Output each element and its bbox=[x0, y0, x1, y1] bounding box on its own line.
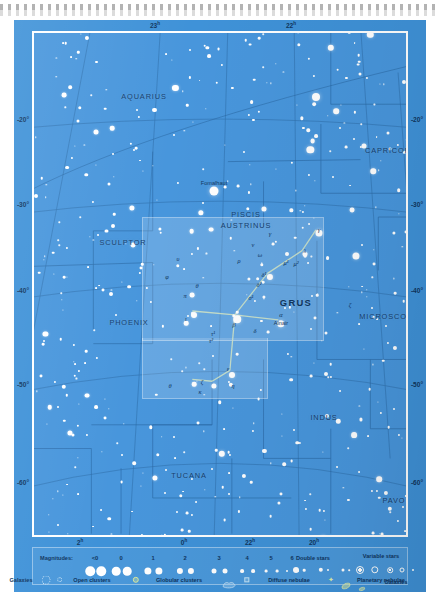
star-name-label: Alnair bbox=[274, 320, 288, 326]
star bbox=[406, 94, 407, 95]
constellation-label: CAPRICORNUS bbox=[365, 146, 408, 155]
double-star-symbol-medium-pair bbox=[327, 569, 329, 571]
bayer-designation-label: ι bbox=[185, 315, 187, 322]
magnitude-dot bbox=[251, 569, 255, 573]
dec-tick-left: -60° bbox=[17, 479, 29, 486]
magnitude-value-label: 5 bbox=[269, 555, 272, 561]
bayer-designation-label: γ bbox=[318, 226, 321, 233]
bayer-designation-label: κ bbox=[198, 388, 201, 395]
magnitude-dot bbox=[96, 566, 106, 576]
magnitude-value-label: <0 bbox=[92, 555, 99, 561]
star bbox=[32, 255, 33, 258]
bayer-designation-label: λ bbox=[304, 247, 307, 254]
open-cluster-symbol-small bbox=[57, 577, 62, 582]
magnitude-value-label: 3 bbox=[217, 555, 220, 561]
variable-star-symbol-3 bbox=[387, 567, 393, 573]
star bbox=[320, 535, 326, 537]
variable-star-symbol-2 bbox=[371, 566, 378, 573]
galaxy-symbol-large bbox=[341, 576, 351, 583]
magnitude-value-label: 2 bbox=[183, 555, 186, 561]
constellation-label: GRUS bbox=[280, 297, 312, 308]
bayer-designation-label: δ² bbox=[257, 281, 262, 288]
star bbox=[32, 96, 33, 98]
dec-tick-right: -50° bbox=[411, 381, 423, 388]
magnitude-dot bbox=[112, 567, 121, 576]
ra-tick-bottom: 2h bbox=[77, 538, 83, 546]
magnitude-dot bbox=[212, 569, 217, 574]
bayer-designation-label: ζ bbox=[201, 378, 204, 385]
magnitude-value-label: 0 bbox=[119, 555, 122, 561]
bayer-designation-label: φ bbox=[165, 273, 169, 280]
magnitude-dot bbox=[177, 568, 183, 574]
star bbox=[406, 139, 408, 141]
dec-tick-right: -40° bbox=[411, 287, 423, 294]
constellation-label: AUSTRINUS bbox=[221, 221, 271, 230]
galaxy-symbol-small bbox=[359, 578, 366, 583]
magnitude-dot bbox=[155, 567, 162, 574]
dec-tick-left: -30° bbox=[17, 201, 29, 208]
bayer-designation-label: υ bbox=[177, 255, 180, 262]
legend-variable-stars-label: Variable stars bbox=[363, 553, 399, 559]
constellation-label: AQUARIUS bbox=[121, 92, 166, 101]
magnitude-value-label: 6 bbox=[290, 555, 293, 561]
double-star-symbol-small-pair bbox=[348, 569, 350, 571]
bayer-designation-label: ν bbox=[252, 241, 255, 248]
dec-tick-right: -30° bbox=[411, 201, 423, 208]
planetary-nebula-symbol: ✦ bbox=[328, 576, 334, 583]
bayer-designation-label: θ bbox=[195, 282, 198, 289]
double-star-symbol-small bbox=[342, 569, 345, 572]
bayer-designation-label: η bbox=[231, 382, 234, 389]
diffuse-nebula-symbol-shape bbox=[222, 576, 236, 585]
ra-tick-top: 22h bbox=[286, 21, 296, 29]
ra-tick-top: 23h bbox=[150, 21, 160, 29]
constellation-label: MICROSCOPIUM bbox=[359, 312, 408, 321]
sky-map-frame: AQUARIUSCAPRICORNUSPISCISAUSTRINUSSCULPT… bbox=[32, 31, 408, 537]
legend-open-clusters-label: Open clusters bbox=[73, 577, 110, 583]
constellation-label: TUCANA bbox=[171, 471, 207, 480]
dec-tick-right: -60° bbox=[411, 479, 423, 486]
dec-tick-left: -40° bbox=[17, 287, 29, 294]
double-star-symbol-large-pair bbox=[303, 569, 306, 572]
bayer-designation-label: θ bbox=[168, 382, 171, 389]
star-chart-page: AQUARIUSCAPRICORNUSPISCISAUSTRINUSSCULPT… bbox=[0, 0, 440, 610]
dec-tick-right: -20° bbox=[411, 116, 423, 123]
bayer-designation-label: γ bbox=[269, 230, 272, 237]
magnitude-dot bbox=[144, 567, 151, 574]
bayer-designation-label: ρ bbox=[237, 257, 240, 264]
bayer-designation-label: ε bbox=[227, 365, 230, 372]
bayer-designation-label: τ¹ bbox=[211, 330, 215, 337]
variable-star-symbol-5 bbox=[412, 569, 414, 571]
legend-double-stars-label: Double stars bbox=[296, 555, 330, 561]
magnitude-dot bbox=[85, 566, 95, 576]
globular-cluster-symbol bbox=[133, 577, 139, 583]
bayer-designation-label: β bbox=[232, 321, 235, 328]
legend-globular-clusters-label: Globular clusters bbox=[156, 577, 202, 583]
bayer-designation-label: δ¹ bbox=[262, 271, 267, 278]
bayer-designation-label: μ¹ bbox=[283, 259, 288, 266]
open-cluster-symbol-large bbox=[42, 576, 51, 585]
legend-galaxies-label-right: Galaxies bbox=[384, 579, 407, 585]
magnitude-value-label: 1 bbox=[151, 555, 154, 561]
chart-plate: AQUARIUSCAPRICORNUSPISCISAUSTRINUSSCULPT… bbox=[14, 20, 426, 592]
magnitude-dot bbox=[276, 570, 279, 573]
constellation-label: SCULPTOR bbox=[100, 238, 147, 247]
bayer-designation-label: δ bbox=[254, 327, 257, 334]
constellation-label: PISCIS bbox=[231, 210, 260, 219]
diffuse-nebula-symbol-square bbox=[244, 577, 249, 582]
scan-edge-top-secondary bbox=[0, 10, 440, 16]
bayer-designation-label: τ² bbox=[209, 337, 213, 344]
magnitude-dot bbox=[123, 567, 132, 576]
constellation-label: PAVO bbox=[383, 496, 406, 505]
legend-diffuse-nebulae-label: Diffuse nebulae bbox=[268, 577, 310, 583]
magnitude-dot bbox=[286, 570, 288, 572]
star bbox=[407, 246, 408, 247]
ra-tick-bottom: 22h bbox=[245, 538, 255, 546]
star bbox=[307, 535, 309, 537]
variable-star-symbol-4 bbox=[400, 568, 405, 573]
double-star-symbol-large bbox=[293, 567, 299, 573]
bayer-designation-label: ω bbox=[258, 251, 263, 258]
ra-tick-bottom: 0h bbox=[181, 538, 187, 546]
dec-tick-left: -20° bbox=[17, 116, 29, 123]
legend-galaxies-label: Galaxies bbox=[9, 577, 32, 583]
double-star-symbol-medium bbox=[319, 568, 323, 572]
